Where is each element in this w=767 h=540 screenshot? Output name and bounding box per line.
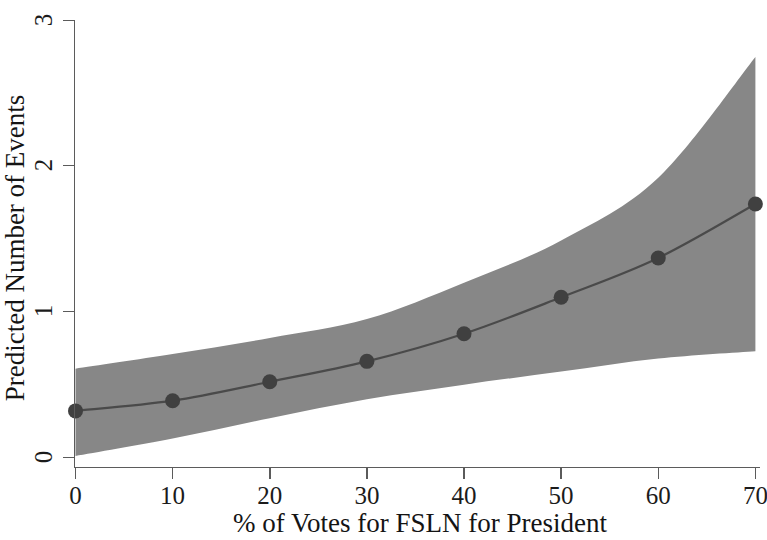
data-point-marker bbox=[165, 393, 180, 408]
x-tick-label-0: 0 bbox=[69, 482, 82, 509]
data-point-marker bbox=[651, 250, 666, 265]
x-tick-label-60: 60 bbox=[646, 482, 671, 509]
x-tick-label-70: 70 bbox=[743, 482, 767, 509]
y-tick-label-2: 2 bbox=[30, 159, 57, 172]
x-axis-title: % of Votes for FSLN for President bbox=[233, 508, 607, 538]
data-point-marker bbox=[457, 326, 472, 341]
data-point-marker bbox=[748, 197, 763, 212]
y-tick-label-3: 3 bbox=[30, 14, 57, 27]
y-tick-label-1: 1 bbox=[30, 305, 57, 318]
chart-figure: 3 2 1 0 0 10 20 30 40 50 60 70 % of Vote… bbox=[0, 0, 767, 540]
chart-canvas: 3 2 1 0 0 10 20 30 40 50 60 70 % of Vote… bbox=[0, 0, 767, 540]
data-point-marker bbox=[262, 374, 277, 389]
x-tick-label-50: 50 bbox=[549, 482, 574, 509]
data-point-marker bbox=[554, 290, 569, 305]
data-point-marker bbox=[68, 403, 83, 418]
x-tick-label-40: 40 bbox=[452, 482, 477, 509]
data-point-marker bbox=[359, 354, 374, 369]
x-tick-label-30: 30 bbox=[354, 482, 379, 509]
x-tick-label-20: 20 bbox=[257, 482, 282, 509]
x-tick-label-10: 10 bbox=[160, 482, 185, 509]
y-axis-title: Predicted Number of Events bbox=[0, 95, 30, 402]
y-tick-label-0: 0 bbox=[30, 451, 57, 464]
